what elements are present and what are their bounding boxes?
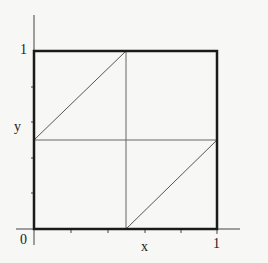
diagram-canvas: 1 y 0 x 1 [0, 0, 268, 263]
y-tick-label-one: 1 [20, 42, 27, 58]
lower-right-diagonal [126, 140, 217, 229]
x-axis-label: x [141, 239, 148, 255]
x-tick-label-one: 1 [213, 236, 220, 252]
upper-left-diagonal [34, 51, 126, 140]
unit-square-diagram [0, 0, 268, 263]
y-axis-label: y [14, 119, 21, 135]
origin-label: 0 [20, 232, 27, 248]
